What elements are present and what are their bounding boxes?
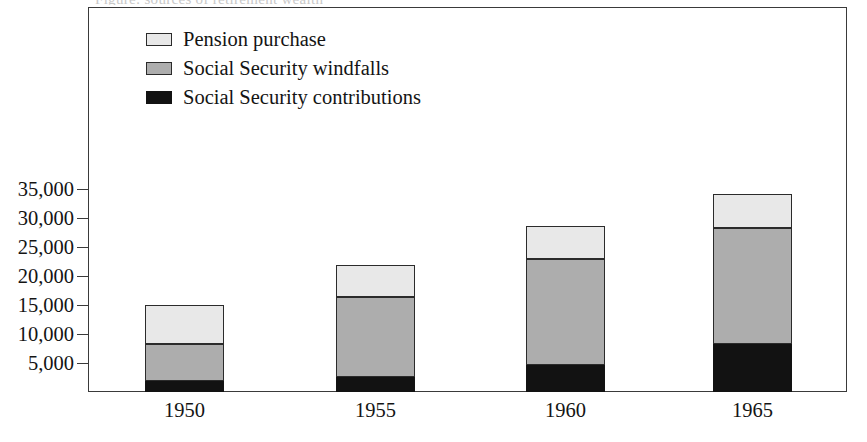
bar-segment-contributions-1965[interactable]: [713, 344, 792, 392]
legend-swatch-windfalls: [146, 62, 172, 75]
bar-segment-pension-1960[interactable]: [526, 226, 605, 258]
bar-segment-windfalls-1950[interactable]: [145, 344, 224, 381]
bar-segment-windfalls-1960[interactable]: [526, 259, 605, 365]
x-axis-label-1955: 1955: [336, 400, 415, 421]
bar-segment-windfalls-1955[interactable]: [336, 297, 415, 376]
y-axis-label: 30,000: [2, 208, 74, 229]
bar-segment-pension-1950[interactable]: [145, 305, 224, 344]
y-axis-tick: [77, 305, 89, 306]
bar-1965[interactable]: [713, 7, 792, 392]
bar-segment-contributions-1950[interactable]: [145, 381, 224, 392]
stacked-bar-chart: Figure: sources of retirement wealth 5,0…: [0, 0, 867, 442]
bar-segment-pension-1965[interactable]: [713, 194, 792, 228]
legend: Pension purchaseSocial Security windfall…: [146, 25, 421, 112]
y-axis-tick: [77, 218, 89, 219]
y-axis-tick: [77, 247, 89, 248]
bar-segment-pension-1955[interactable]: [336, 265, 415, 297]
x-axis-label-1960: 1960: [526, 400, 605, 421]
bar-segment-windfalls-1965[interactable]: [713, 228, 792, 344]
y-axis-tick: [77, 189, 89, 190]
y-axis-label: 10,000: [2, 324, 74, 345]
legend-label-contrib: Social Security contributions: [183, 87, 421, 108]
clipped-header-text: Figure: sources of retirement wealth: [95, 0, 795, 5]
y-axis-label: 5,000: [2, 353, 74, 374]
bar-1960[interactable]: [526, 7, 605, 392]
legend-item-windfalls[interactable]: Social Security windfalls: [146, 54, 421, 83]
y-axis-label: 35,000: [2, 179, 74, 200]
legend-swatch-pension: [146, 33, 172, 46]
y-axis-label: 25,000: [2, 237, 74, 258]
y-axis-label: 20,000: [2, 266, 74, 287]
y-axis-tick: [77, 276, 89, 277]
y-axis-label: 15,000: [2, 295, 74, 316]
legend-swatch-contrib: [146, 91, 172, 104]
bar-segment-contributions-1960[interactable]: [526, 365, 605, 392]
y-axis-tick: [77, 334, 89, 335]
legend-label-windfalls: Social Security windfalls: [183, 58, 389, 79]
x-axis-label-1950: 1950: [145, 400, 224, 421]
legend-item-contrib[interactable]: Social Security contributions: [146, 83, 421, 112]
y-axis-tick: [77, 363, 89, 364]
x-axis-label-1965: 1965: [713, 400, 792, 421]
bar-segment-contributions-1955[interactable]: [336, 377, 415, 392]
legend-label-pension: Pension purchase: [183, 29, 326, 50]
legend-item-pension[interactable]: Pension purchase: [146, 25, 421, 54]
